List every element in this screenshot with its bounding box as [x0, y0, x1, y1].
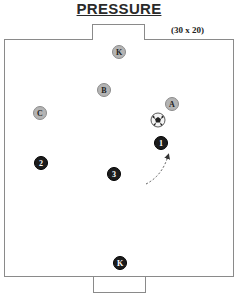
- diagram-overlay: [0, 0, 238, 299]
- soccer-ball-icon: [151, 113, 165, 127]
- defender-run-arrow: [146, 156, 168, 184]
